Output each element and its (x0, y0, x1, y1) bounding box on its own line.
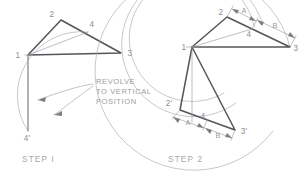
step1-label-vertex-1: 1 (16, 51, 21, 60)
step2-line-1-to-4-upper (192, 29, 252, 47)
step2-upper-dim-a-arrow-start (232, 9, 239, 14)
drawing-canvas: 1 2 3 4 4' REVOLVE TO VERTICAL POSITION … (0, 0, 306, 172)
step2-upper-dim-b-arrow-end (288, 32, 295, 38)
step2-dim-label-lower-b: B (215, 131, 220, 140)
step2-label-vertex-3: 3 (294, 44, 299, 53)
step2-lower-dim-a-arrow-end (197, 123, 204, 128)
step2-label-vertex-3prime: 3' (241, 127, 248, 136)
step2-upper-dim-a-arrow-end (249, 16, 256, 21)
step2-lower-dim-b-arrow-end (225, 133, 232, 138)
step1-note-line-2: TO VERTICAL (96, 87, 152, 96)
step2-label-point-4-rotated: 4 (201, 112, 206, 121)
step2-lower-ext-tick-at-2prime (172, 110, 180, 119)
step1-note-line-1: REVOLVE (96, 77, 135, 86)
step2-dim-label-upper-a: A (241, 6, 246, 15)
step1-label-point-4: 4 (90, 20, 95, 29)
step2-label-vertex-1: 1 (182, 43, 187, 52)
step2-upper-dim-b-arrow-start (257, 20, 264, 26)
step2-lower-dim-b-arrow-start (205, 128, 212, 134)
step2-label-point-4-upper: 4 (247, 30, 252, 39)
step1-label-point-4prime: 4' (24, 134, 31, 143)
step1-caption: STEP I (22, 155, 55, 164)
step1-group: 1 2 3 4 4' REVOLVE TO VERTICAL POSITION … (16, 10, 152, 164)
step2-caption: STEP 2 (168, 155, 203, 164)
step1-line-1-to-4 (28, 32, 88, 55)
step1-leader-lower (54, 86, 93, 115)
step2-upper-ext-tick-at-2 (227, 6, 233, 17)
step2-label-vertex-2: 2 (219, 8, 224, 17)
technical-drawing-figure: 1 2 3 4 4' REVOLVE TO VERTICAL POSITION … (0, 0, 306, 172)
step2-lower-dim-a-arrow-start (173, 117, 180, 123)
step1-note-line-3: POSITION (96, 97, 137, 106)
step2-lower-ext-tick-at-3prime (231, 130, 235, 140)
step2-dim-label-upper-b: B (272, 21, 277, 30)
step2-dim-label-lower-a: A (185, 118, 190, 127)
step2-label-vertex-2prime: 2' (166, 99, 173, 108)
step1-label-vertex-2: 2 (50, 10, 55, 19)
